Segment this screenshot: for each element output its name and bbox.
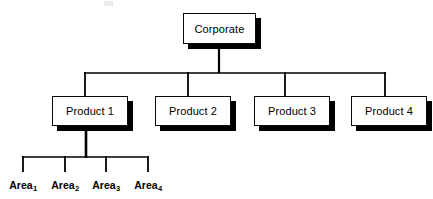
node-product-4-label: Product 4 — [365, 105, 413, 117]
node-corporate[interactable]: Corporate — [183, 13, 256, 44]
node-area-4[interactable]: Area4 — [134, 179, 162, 191]
node-product-3[interactable]: Product 3 — [254, 96, 330, 126]
node-area-3-subscript: 3 — [116, 184, 120, 193]
node-corporate-label: Corporate — [195, 23, 245, 35]
org-chart-diagram: Corporate Product 1 Product 2 Product 3 … — [0, 0, 433, 199]
node-area-2-subscript: 2 — [75, 184, 79, 193]
node-area-4-subscript: 4 — [158, 184, 162, 193]
node-area-3-label: Area — [92, 179, 115, 191]
node-product-4[interactable]: Product 4 — [351, 96, 427, 126]
node-product-2[interactable]: Product 2 — [155, 96, 231, 126]
node-area-2[interactable]: Area2 — [51, 179, 79, 191]
node-product-2-label: Product 2 — [169, 105, 217, 117]
node-product-3-label: Product 3 — [268, 105, 316, 117]
node-area-1-subscript: 1 — [33, 184, 37, 193]
node-area-2-label: Area — [51, 179, 74, 191]
node-area-4-label: Area — [134, 179, 157, 191]
node-area-3[interactable]: Area3 — [92, 179, 120, 191]
node-area-1-label: Area — [9, 179, 32, 191]
node-area-1[interactable]: Area1 — [9, 179, 37, 191]
node-product-1-label: Product 1 — [66, 105, 114, 117]
node-product-1[interactable]: Product 1 — [52, 96, 128, 126]
